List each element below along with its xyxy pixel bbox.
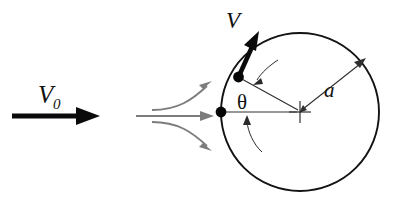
radius-label: a [324, 78, 335, 102]
streamline-group [136, 81, 214, 151]
angle-theta-indicator [243, 60, 278, 152]
slanted-radius-line [240, 78, 298, 110]
angle-theta-label: θ [237, 90, 247, 114]
lower-streamline [152, 122, 207, 146]
flow-past-cylinder-diagram: V 0 V a θ [0, 0, 411, 211]
upper-streamline [152, 86, 207, 110]
surface-velocity-label: V [226, 8, 243, 33]
theta-upper-arc [257, 60, 278, 80]
theta-lower-arc [247, 122, 262, 152]
front-stagnation-point-dot [216, 107, 227, 118]
theta-lower-arrowhead [243, 115, 251, 125]
surface-velocity-arrow [239, 31, 260, 77]
center-streamline-arrowhead [200, 111, 214, 121]
freestream-velocity-subscript: 0 [53, 96, 61, 112]
freestream-arrowhead [76, 107, 100, 125]
figure-canvas: V 0 V a θ [0, 0, 411, 211]
velocity-arrowhead [244, 31, 259, 51]
surface-point-dot [233, 72, 244, 83]
